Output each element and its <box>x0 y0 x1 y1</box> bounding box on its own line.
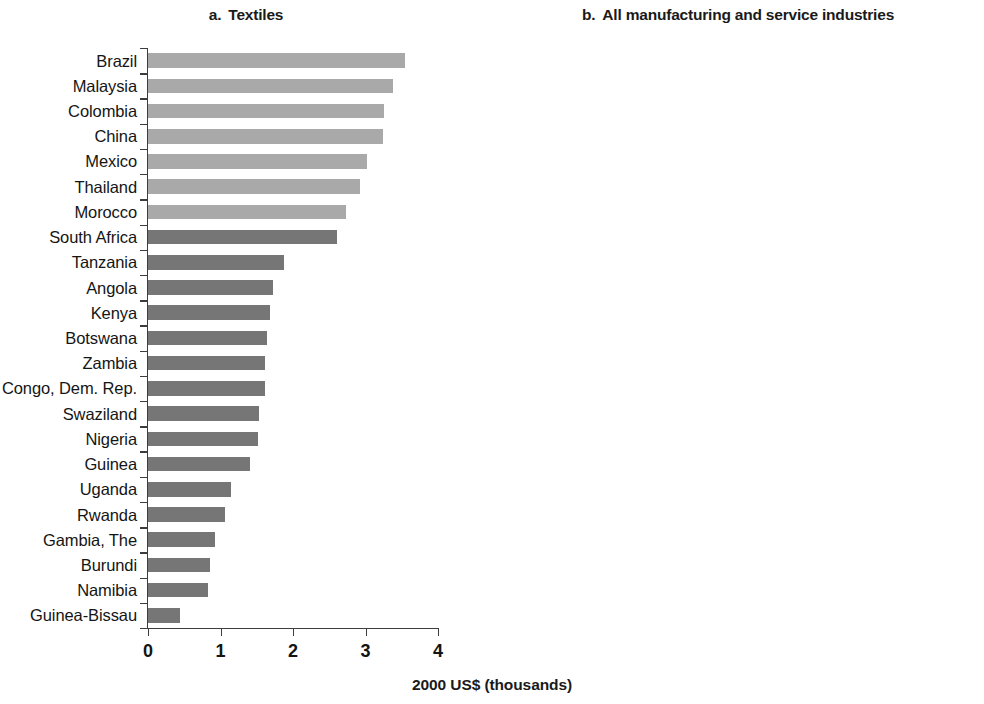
bar <box>148 608 180 623</box>
bar <box>148 381 265 396</box>
bar-row: Swaziland <box>148 401 438 426</box>
panel-b-letter: b. <box>582 6 595 23</box>
bar-row: Morocco <box>148 199 438 224</box>
panel-b-title: b.All manufacturing and service industri… <box>492 6 984 24</box>
y-axis-tick <box>140 552 147 553</box>
y-axis-tick-label: Mexico <box>85 153 137 170</box>
y-axis-tick <box>140 325 147 326</box>
bar-row: Burundi <box>148 552 438 577</box>
y-axis-tick <box>140 451 147 452</box>
y-axis-tick-label: Congo, Dem. Rep. <box>2 380 137 397</box>
bar <box>148 432 258 447</box>
bar-row: South Africa <box>148 225 438 250</box>
y-axis-tick-label: Gambia, The <box>43 531 137 548</box>
x-axis-tick-label: 0 <box>143 641 153 662</box>
x-axis-tick <box>221 628 222 636</box>
bar-row: Colombia <box>148 98 438 123</box>
y-axis-tick <box>140 48 147 49</box>
y-axis-tick-label: Burundi <box>81 557 137 574</box>
y-axis-tick <box>140 174 147 175</box>
bar-row: China <box>148 124 438 149</box>
x-axis-tick-label: 3 <box>360 641 370 662</box>
bar <box>148 507 225 522</box>
x-axis-tick-label: 4 <box>433 641 443 662</box>
y-axis-tick-label: Colombia <box>68 103 137 120</box>
y-axis-tick <box>140 578 147 579</box>
bar <box>148 482 231 497</box>
bar-row: Guinea <box>148 451 438 476</box>
bar-row: Thailand <box>148 174 438 199</box>
y-axis-tick-label: Morocco <box>74 204 137 221</box>
bar <box>148 532 215 547</box>
bar <box>148 457 250 472</box>
y-axis-tick-label: Brazil <box>96 52 137 69</box>
y-axis-tick-label: Kenya <box>91 305 137 322</box>
y-axis-tick <box>140 98 147 99</box>
x-axis-caption: 2000 US$ (thousands) <box>0 676 984 694</box>
x-axis-tick <box>293 628 294 636</box>
bar-row: Gambia, The <box>148 527 438 552</box>
bar <box>148 558 210 573</box>
bar-row: Nigeria <box>148 426 438 451</box>
y-axis-tick <box>140 73 147 74</box>
bar-row: Malaysia <box>148 73 438 98</box>
y-axis-tick-label: Nigeria <box>85 431 137 448</box>
x-axis-tick <box>438 628 439 636</box>
y-axis-tick <box>140 376 147 377</box>
panel-a-title: a.Textiles <box>0 6 492 24</box>
bar <box>148 129 383 144</box>
y-axis-tick <box>140 628 147 629</box>
plot-area-textiles: BrazilMalaysiaColombiaChinaMexicoThailan… <box>148 48 438 628</box>
bar-row: Zambia <box>148 351 438 376</box>
bar-row: Rwanda <box>148 502 438 527</box>
bar-row: Uganda <box>148 477 438 502</box>
panel-textiles: a.Textiles BrazilMalaysiaColombiaChinaMe… <box>0 0 492 704</box>
y-axis-tick-label: China <box>94 128 137 145</box>
bar <box>148 356 265 371</box>
bar-row: Brazil <box>148 48 438 73</box>
bar-row: Congo, Dem. Rep. <box>148 376 438 401</box>
bar-row: Botswana <box>148 325 438 350</box>
y-axis-tick-label: Malaysia <box>73 78 137 95</box>
bar <box>148 205 346 220</box>
y-axis-tick-label: Angola <box>86 279 137 296</box>
bar-row: Tanzania <box>148 250 438 275</box>
bar-row: Guinea-Bissau <box>148 603 438 628</box>
bar <box>148 583 208 598</box>
x-axis-tick-label: 2 <box>288 641 298 662</box>
bar-row: Namibia <box>148 578 438 603</box>
bar <box>148 331 267 346</box>
x-axis-tick <box>148 628 149 636</box>
y-axis-tick <box>140 300 147 301</box>
bar <box>148 255 284 270</box>
y-axis-tick <box>140 426 147 427</box>
y-axis-tick <box>140 124 147 125</box>
panel-b-title-text: All manufacturing and service industries <box>602 6 894 23</box>
bar-row: Kenya <box>148 300 438 325</box>
bar <box>148 79 393 94</box>
y-axis-tick-label: South Africa <box>49 229 137 246</box>
bar <box>148 280 273 295</box>
panel-all-manufacturing-and-service-industries: b.All manufacturing and service industri… <box>492 0 984 704</box>
y-axis-tick <box>140 199 147 200</box>
y-axis-tick-label: Uganda <box>80 481 137 498</box>
bar <box>148 406 259 421</box>
y-axis-tick-label: Tanzania <box>72 254 137 271</box>
bar <box>148 53 405 68</box>
bar <box>148 230 337 245</box>
y-axis-tick <box>140 225 147 226</box>
y-axis-tick <box>140 250 147 251</box>
y-axis-tick <box>140 149 147 150</box>
y-axis-tick-label: Botswana <box>65 330 137 347</box>
bar <box>148 179 360 194</box>
y-axis-tick <box>140 401 147 402</box>
y-axis-tick <box>140 502 147 503</box>
bar <box>148 305 270 320</box>
x-axis-tick <box>366 628 367 636</box>
y-axis-tick <box>140 275 147 276</box>
y-axis-tick <box>140 351 147 352</box>
y-axis-tick-label: Namibia <box>77 582 137 599</box>
figure-two-panel-bar-charts: a.Textiles BrazilMalaysiaColombiaChinaMe… <box>0 0 984 704</box>
y-axis-tick-label: Rwanda <box>77 506 137 523</box>
bar <box>148 104 384 119</box>
